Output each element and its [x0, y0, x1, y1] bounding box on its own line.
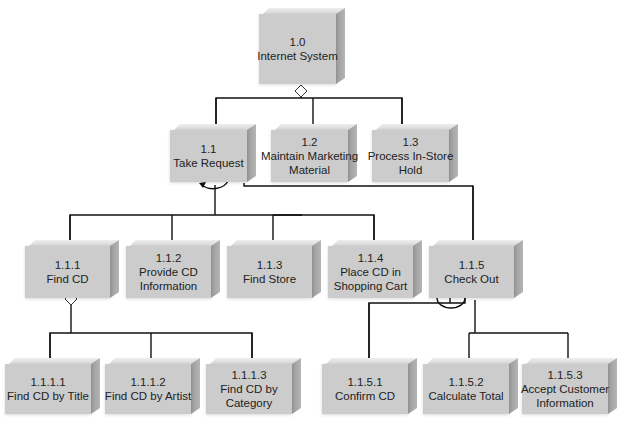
node-id: 1.1.3 [257, 258, 283, 272]
node-id: 1.1.5.1 [347, 375, 382, 389]
selection-diamond-1-0 [295, 85, 307, 97]
node-id: 1.1.4 [358, 251, 384, 265]
node-label: Take Request [173, 156, 243, 170]
node-label-line2: Shopping Cart [334, 279, 408, 293]
node-id: 1.1.2 [156, 251, 182, 265]
node-label: Maintain Marketing [261, 149, 358, 163]
node-1-1-4: 1.1.4 Place CD in Shopping Cart [328, 240, 422, 298]
node-1-1-1-2: 1.1.1.2 Find CD by Artist [105, 358, 200, 414]
node-label-line2: Material [289, 163, 330, 177]
node-1-1-1-1: 1.1.1.1 Find CD by Title [5, 358, 100, 414]
node-1-0: 1.0 Internet System [259, 8, 345, 84]
node-1-1-5-3: 1.1.5.3 Accept Customer Information [522, 358, 617, 414]
node-label: Accept Customer [521, 382, 609, 396]
node-id: 1.1.1.3 [231, 368, 266, 382]
node-1-1-5: 1.1.5 Check Out [429, 240, 523, 298]
node-label: Find CD by [220, 382, 278, 396]
node-id: 1.1.1.2 [130, 375, 165, 389]
node-id: 1.1.1.1 [30, 375, 65, 389]
node-id: 1.1.1 [55, 258, 81, 272]
node-1-1-3: 1.1.3 Find Store [227, 240, 321, 298]
node-id: 1.0 [290, 35, 306, 49]
node-label-line2: Information [140, 279, 198, 293]
node-1-1: 1.1 Take Request [170, 124, 256, 182]
node-label: Find Store [243, 272, 296, 286]
node-label: Process In-Store [368, 149, 454, 163]
node-1-1-5-1: 1.1.5.1 Confirm CD [322, 358, 417, 414]
node-1-1-1-3: 1.1.1.3 Find CD by Category [206, 358, 301, 414]
node-id: 1.3 [403, 135, 419, 149]
node-label: Find CD [46, 272, 88, 286]
node-label: Find CD by Title [7, 389, 89, 403]
node-1-1-5-2: 1.1.5.2 Calculate Total [423, 358, 518, 414]
node-label: Place CD in [340, 265, 401, 279]
node-label: Find CD by Artist [105, 389, 191, 403]
node-1-1-2: 1.1.2 Provide CD Information [126, 240, 220, 298]
node-1-2: 1.2 Maintain Marketing Material [271, 124, 357, 182]
node-label-line2: Hold [399, 163, 423, 177]
node-label: Internet System [257, 49, 338, 63]
node-id: 1.1.5.2 [448, 375, 483, 389]
node-id: 1.1.5 [459, 258, 485, 272]
node-label: Provide CD [139, 265, 198, 279]
node-1-1-1: 1.1.1 Find CD [25, 240, 119, 298]
node-id: 1.1.5.3 [547, 368, 582, 382]
node-label: Check Out [444, 272, 498, 286]
hierarchy-diagram: 1.0 Internet System 1.1 Take Request 1.2… [0, 0, 624, 424]
node-label-line2: Category [226, 396, 273, 410]
node-id: 1.2 [302, 135, 318, 149]
node-label: Calculate Total [428, 389, 503, 403]
node-id: 1.1 [201, 142, 217, 156]
node-label: Confirm CD [335, 389, 395, 403]
node-1-3: 1.3 Process In-Store Hold [372, 124, 458, 182]
node-label-line2: Information [536, 396, 594, 410]
